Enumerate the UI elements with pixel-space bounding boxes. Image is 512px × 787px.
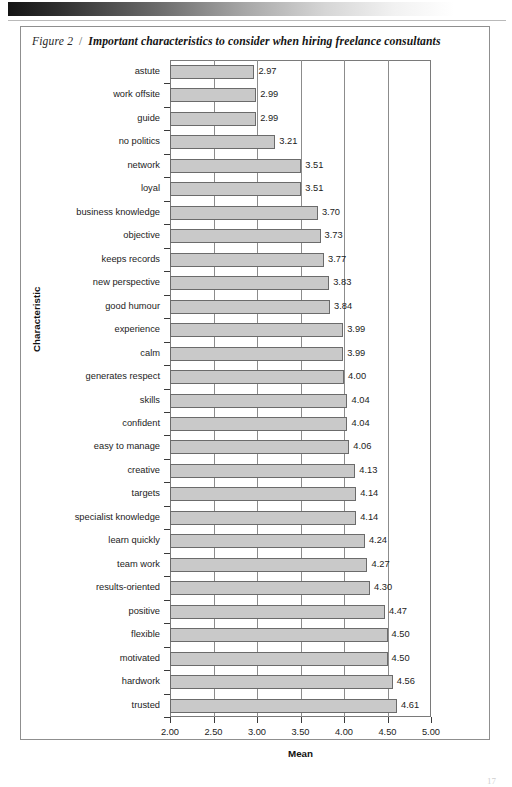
x-axis-tick bbox=[431, 717, 432, 723]
x-axis-tick bbox=[388, 717, 389, 723]
category-label: flexible bbox=[0, 629, 160, 639]
x-axis-tick-label: 2.00 bbox=[150, 727, 190, 737]
x-axis-tick-label: 3.00 bbox=[237, 727, 277, 737]
y-axis-title: Characteristic bbox=[31, 287, 42, 352]
category-label: hardwork bbox=[0, 676, 160, 686]
page-number: 17 bbox=[487, 776, 496, 786]
value-label: 4.50 bbox=[392, 653, 410, 663]
value-label: 3.73 bbox=[325, 230, 343, 240]
bar-row: easy to manage4.06 bbox=[0, 435, 512, 458]
value-label: 3.83 bbox=[333, 277, 351, 287]
bar bbox=[170, 112, 256, 126]
value-label: 4.00 bbox=[348, 371, 366, 381]
category-label: calm bbox=[0, 348, 160, 358]
value-label: 4.06 bbox=[353, 441, 371, 451]
bar bbox=[170, 159, 301, 173]
bar-row: guide2.99 bbox=[0, 107, 512, 130]
category-label: keeps records bbox=[0, 254, 160, 264]
category-label: experience bbox=[0, 324, 160, 334]
category-label: team work bbox=[0, 559, 160, 569]
bar bbox=[170, 370, 344, 384]
bar bbox=[170, 581, 370, 595]
bar-row: targets4.14 bbox=[0, 482, 512, 505]
value-label: 4.47 bbox=[389, 606, 407, 616]
value-label: 3.99 bbox=[347, 348, 365, 358]
x-axis-tick-label: 3.50 bbox=[281, 727, 321, 737]
category-label: business knowledge bbox=[0, 207, 160, 217]
category-label: generates respect bbox=[0, 371, 160, 381]
bar-row: calm3.99 bbox=[0, 342, 512, 365]
category-label: creative bbox=[0, 465, 160, 475]
bar-row: loyal3.51 bbox=[0, 177, 512, 200]
bar bbox=[170, 300, 330, 314]
bar bbox=[170, 394, 347, 408]
bar bbox=[170, 675, 393, 689]
bar-row: results-oriented4.30 bbox=[0, 576, 512, 599]
category-label: skills bbox=[0, 395, 160, 405]
bar-row: no politics3.21 bbox=[0, 130, 512, 153]
category-label: positive bbox=[0, 606, 160, 616]
category-label: astute bbox=[0, 66, 160, 76]
bar-row: network3.51 bbox=[0, 154, 512, 177]
value-label: 4.27 bbox=[371, 559, 389, 569]
bar-row: keeps records3.77 bbox=[0, 248, 512, 271]
bar bbox=[170, 699, 397, 713]
bar bbox=[170, 605, 385, 619]
value-label: 3.51 bbox=[305, 183, 323, 193]
category-label: results-oriented bbox=[0, 582, 160, 592]
value-label: 4.14 bbox=[360, 488, 378, 498]
value-label: 4.61 bbox=[401, 700, 419, 710]
bar bbox=[170, 558, 367, 572]
bar bbox=[170, 464, 355, 478]
bar-row: motivated4.50 bbox=[0, 647, 512, 670]
bar bbox=[170, 440, 349, 454]
category-label: motivated bbox=[0, 653, 160, 663]
category-label: loyal bbox=[0, 183, 160, 193]
bar-row: generates respect4.00 bbox=[0, 365, 512, 388]
value-label: 2.97 bbox=[258, 66, 276, 76]
category-label: no politics bbox=[0, 136, 160, 146]
category-label: work offsite bbox=[0, 89, 160, 99]
bar bbox=[170, 88, 256, 102]
bar bbox=[170, 229, 321, 243]
x-axis-tick bbox=[301, 717, 302, 723]
value-label: 4.04 bbox=[351, 395, 369, 405]
value-label: 2.99 bbox=[260, 89, 278, 99]
value-label: 4.24 bbox=[369, 535, 387, 545]
bar bbox=[170, 65, 254, 79]
bar-row: creative4.13 bbox=[0, 459, 512, 482]
x-axis-tick bbox=[214, 717, 215, 723]
category-label: specialist knowledge bbox=[0, 512, 160, 522]
x-axis-tick-label: 5.00 bbox=[411, 727, 451, 737]
x-axis-tick-label: 4.50 bbox=[368, 727, 408, 737]
category-label: guide bbox=[0, 113, 160, 123]
category-label: objective bbox=[0, 230, 160, 240]
value-label: 4.50 bbox=[392, 629, 410, 639]
bar bbox=[170, 347, 343, 361]
y-axis-tick bbox=[164, 717, 170, 718]
bar-row: skills4.04 bbox=[0, 389, 512, 412]
bar bbox=[170, 253, 324, 267]
bar bbox=[170, 135, 275, 149]
bar-row: business knowledge3.70 bbox=[0, 201, 512, 224]
value-label: 3.77 bbox=[328, 254, 346, 264]
bar bbox=[170, 206, 318, 220]
category-label: easy to manage bbox=[0, 441, 160, 451]
category-label: targets bbox=[0, 488, 160, 498]
bar-row: confident4.04 bbox=[0, 412, 512, 435]
value-label: 4.13 bbox=[359, 465, 377, 475]
value-label: 3.99 bbox=[347, 324, 365, 334]
bar bbox=[170, 534, 365, 548]
value-label: 2.99 bbox=[260, 113, 278, 123]
bar bbox=[170, 487, 356, 501]
category-label: network bbox=[0, 160, 160, 170]
category-label: new perspective bbox=[0, 277, 160, 287]
x-axis-tick bbox=[170, 717, 171, 723]
value-label: 3.70 bbox=[322, 207, 340, 217]
bar-row: new perspective3.83 bbox=[0, 271, 512, 294]
x-axis-tick-label: 2.50 bbox=[194, 727, 234, 737]
bar-row: trusted4.61 bbox=[0, 694, 512, 717]
value-label: 4.30 bbox=[374, 582, 392, 592]
value-label: 3.21 bbox=[279, 136, 297, 146]
bar bbox=[170, 417, 347, 431]
